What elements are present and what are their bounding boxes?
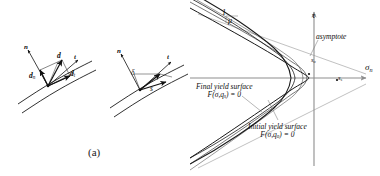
point-initial-strength [308, 73, 310, 75]
label-slope-denominator: μ [228, 17, 232, 25]
label-point-initial: so [311, 57, 316, 65]
final-eq-tail: ) = 0 [226, 90, 241, 99]
panel-a: n t d dn dt n t δ s (a) [0, 0, 190, 176]
final-surface-equation: F(σ,qs) = 0 [196, 91, 253, 100]
label-ss-subscript: s [341, 77, 343, 82]
initial-eq-args: (σ,q [265, 130, 277, 139]
label-point-final: ss [338, 75, 342, 83]
figure-root: n t d dn dt n t δ s (a) [0, 0, 380, 176]
label-tau-axis: τ [312, 11, 315, 20]
displacement-vector-d [48, 60, 62, 86]
label-sigma-axis: σn [365, 63, 373, 73]
label-tangent-vector-left: t [74, 54, 76, 61]
label-slip: s [150, 85, 153, 93]
label-sigma-subscript: n [369, 67, 372, 73]
displacement-vector-dn [40, 70, 48, 86]
label-dt-subscript: t [74, 72, 75, 78]
initial-eq-tail: ) = 0 [279, 130, 294, 139]
caption-a: (a) [88, 146, 100, 158]
panel-b: τ σn 1 μ asymptote so ss Final yield sur… [190, 0, 380, 176]
label-initial-yield-surface: Initial yield surface F(σ,qo) = 0 [248, 123, 307, 139]
asymptote-upper [198, 14, 366, 74]
label-displacement-dt: dt [70, 70, 75, 79]
final-eq-args: (σ,q [212, 90, 224, 99]
initial-surface-equation: F(σ,qo) = 0 [248, 131, 307, 140]
leader-lines [226, 16, 318, 120]
final-surface-title: Final yield surface [196, 83, 253, 91]
initial-surface-title: Initial yield surface [248, 123, 307, 131]
label-so-subscript: o [314, 59, 316, 64]
label-displacement-dn: dn [29, 72, 35, 81]
label-displacement-d: d [57, 52, 61, 60]
label-asymptote: asymptote [316, 33, 346, 41]
label-slope-numerator: 1 [222, 9, 226, 17]
label-dn-subscript: n [33, 74, 36, 80]
interface-curves-right [110, 65, 188, 117]
label-tangent-vector-right: t [167, 54, 169, 61]
label-normal-vector-right: n [117, 48, 121, 55]
label-normal-vector-left: n [24, 44, 28, 51]
label-final-yield-surface: Final yield surface F(σ,qs) = 0 [196, 83, 253, 99]
label-gap: δ [131, 69, 135, 77]
